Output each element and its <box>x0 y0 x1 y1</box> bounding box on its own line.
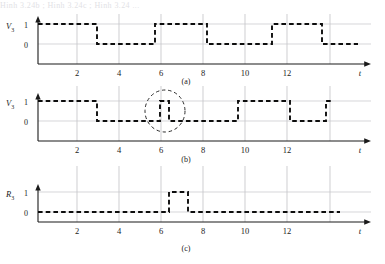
plot-c-vertical-gridlines <box>77 166 330 222</box>
plot-c-level-gridlines <box>38 192 371 212</box>
plot-c-caption: (c) <box>182 244 191 253</box>
plot-c-x-axis-label: t <box>359 226 362 236</box>
glitch-highlight-ellipse-icon <box>145 90 185 132</box>
plot-c-xtick-6: 6 <box>159 226 163 236</box>
plot-a-xtick-2: 2 <box>75 68 79 78</box>
plot-c-xtick-4: 4 <box>117 226 122 236</box>
plot-b-xtick-6: 6 <box>159 145 163 155</box>
plot-b-xtick-4: 4 <box>117 145 122 155</box>
plot-a-vertical-gridlines <box>77 14 330 64</box>
plot-b-level-gridlines <box>38 101 371 121</box>
plot-a-x-axis <box>38 61 371 66</box>
plot-b-xtick-10: 10 <box>241 145 250 155</box>
plot-a-xtick-12: 12 <box>283 68 292 78</box>
plot-a-xtick-6: 6 <box>159 68 163 78</box>
plot-b-ytick-0: 0 <box>24 118 28 127</box>
plot-a-xtick-8: 8 <box>201 68 205 78</box>
plot-c-waveform <box>38 192 340 212</box>
plot-b-x-axis <box>38 138 371 143</box>
plot-b-ytick-1: 1 <box>24 98 28 107</box>
plot-a-ytick-0: 0 <box>24 41 28 50</box>
plot-a-ytick-1: 1 <box>24 21 28 30</box>
plot-c-ytick-1: 1 <box>24 189 28 198</box>
plot-b-xtick-2: 2 <box>75 145 79 155</box>
plot-a-xtick-4: 4 <box>117 68 122 78</box>
plot-c-y-axis <box>35 184 40 222</box>
plot-b-xtick-12: 12 <box>283 145 292 155</box>
plot-c-xtick-12: 12 <box>283 226 292 236</box>
plot-c-xtick-2: 2 <box>75 226 79 236</box>
plot-b-x-axis-label: t <box>359 145 362 155</box>
plot-a-xtick-10: 10 <box>241 68 250 78</box>
plot-b-xtick-8: 8 <box>201 145 205 155</box>
plot-c: 1 0 R3 2 4 6 8 10 12 t (c) <box>5 166 371 253</box>
plot-a-waveform <box>38 24 358 44</box>
plot-b-caption: (b) <box>181 155 191 164</box>
plot-a: 1 0 V3 2 4 6 8 10 12 t (a) <box>6 14 371 86</box>
plot-b-vertical-gridlines <box>77 86 330 141</box>
plot-c-x-axis <box>38 219 371 224</box>
plot-b-y-axis-label: V3 <box>6 98 14 110</box>
plot-c-ytick-0: 0 <box>24 209 28 218</box>
plot-c-xtick-10: 10 <box>241 226 250 236</box>
plot-b: 1 0 V3 2 4 6 8 10 12 t (b) <box>6 86 371 164</box>
page-bleed-text: Hinh 3.24b ; Hinh 3.24c ; Hinh 3.24 ... <box>0 0 385 11</box>
plot-a-y-axis-label: V3 <box>6 21 14 33</box>
timing-diagram-figure: Hinh 3.24b ; Hinh 3.24c ; Hinh 3.24 ... <box>0 0 385 264</box>
plot-c-y-axis-label: R3 <box>5 189 14 201</box>
timing-diagram-svg: 1 0 V3 2 4 6 8 10 12 t (a) <box>0 0 385 264</box>
plot-a-x-axis-label: t <box>359 68 362 78</box>
plot-a-caption: (a) <box>182 77 191 86</box>
plot-c-xtick-8: 8 <box>201 226 205 236</box>
